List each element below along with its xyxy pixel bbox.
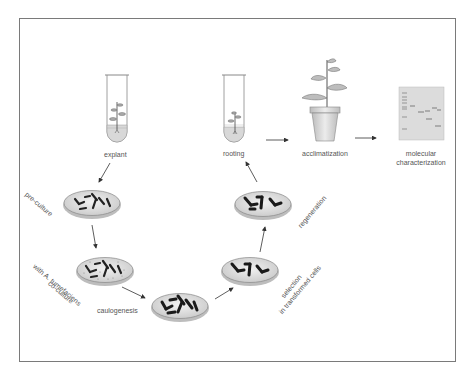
label-explant: explant: [104, 150, 127, 159]
label-molecular-line1: molecular: [388, 149, 454, 158]
petri-dish-shoots-icon: [234, 192, 292, 221]
label-molecular-line2: characterization: [388, 158, 454, 167]
petri-dish-dense-icon: [151, 294, 209, 323]
label-rooting: rooting: [223, 149, 244, 158]
arrow-preculture-to-coculture: [92, 225, 96, 248]
label-molecular-characterization: molecular characterization: [388, 149, 454, 167]
workflow-diagram: [0, 0, 473, 381]
test-tube-plantlet-icon: [105, 75, 129, 142]
potted-plant-icon: [302, 59, 347, 141]
petri-dish-icon: [63, 191, 121, 220]
arrow-explant-to-preculture: [99, 163, 110, 182]
petri-dish-bacteria-icon: [76, 258, 134, 287]
arrow-coculture-to-caulogenesis: [122, 287, 145, 298]
arrow-caulogenesis-to-selection: [215, 288, 233, 299]
label-acclimatization: acclimatization: [302, 149, 348, 158]
arrow-selection-to-regeneration: [260, 227, 265, 252]
petri-dish-sparse-icon: [221, 258, 279, 287]
test-tube-rooted-plantlet-icon: [222, 75, 246, 142]
arrow-regeneration-to-rooting: [246, 162, 257, 182]
label-caulogenesis: caulogenesis: [97, 306, 138, 315]
gel-electrophoresis-icon: [399, 87, 444, 140]
